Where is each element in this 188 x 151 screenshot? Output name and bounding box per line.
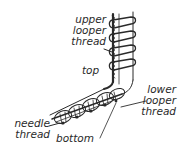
label-needle-thread: needle thread [8, 118, 50, 140]
label-top: top [82, 65, 99, 76]
label-bottom: bottom [56, 133, 94, 144]
label-upper-looper-thread: upper looper thread [62, 14, 106, 47]
overlock-stitch-diagram: upper looper thread top lower looper thr… [0, 0, 188, 151]
label-lower-looper-thread: lower looper thread [140, 84, 176, 117]
